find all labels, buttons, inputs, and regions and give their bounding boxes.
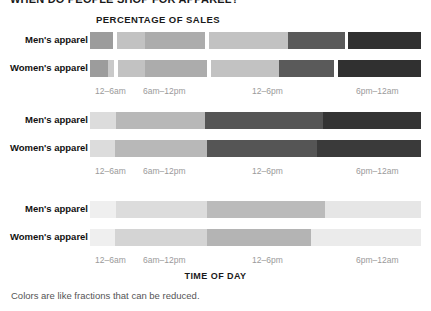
bar-segment[interactable] [115,140,207,157]
bar-segment[interactable] [338,60,421,77]
bar-segment[interactable] [207,140,317,157]
bar-segment[interactable] [207,201,325,218]
stacked-bar-mens[interactable] [90,112,421,129]
stacked-bar-mens[interactable] [90,32,421,49]
bar-segment[interactable] [279,60,334,77]
x-tick-label: 12–6am [95,255,126,265]
x-tick-label: 12–6am [95,86,126,96]
bar-segment[interactable] [348,32,420,49]
x-axis-title: TIME OF DAY [0,271,431,281]
x-tick-labels: 12–6am6am–12pm12–6pm6pm–12am [0,166,431,178]
stacked-bar-womens[interactable] [90,140,421,157]
bar-segment[interactable] [90,60,108,77]
row-label-mens: Men's apparel [25,114,88,125]
chart-row-womens: Women's apparel [0,229,431,246]
bar-segment[interactable] [288,32,344,49]
chart-row-womens: Women's apparel [0,60,431,77]
bar-segment[interactable] [90,229,115,246]
chart-row-mens: Men's apparel [0,201,431,218]
row-label-womens: Women's apparel [10,62,88,73]
bar-segment[interactable] [118,60,144,77]
stacked-bar-mens[interactable] [90,201,421,218]
bar-segment[interactable] [116,112,205,129]
bar-segment[interactable] [205,112,323,129]
bar-segment[interactable] [325,201,421,218]
bar-segment[interactable] [145,32,205,49]
x-tick-label: 6pm–12am [356,86,399,96]
x-tick-label: 12–6pm [252,86,283,96]
x-tick-label: 12–6pm [252,255,283,265]
bar-segment[interactable] [117,32,145,49]
bar-segment[interactable] [211,60,279,77]
stacked-bar-womens[interactable] [90,229,421,246]
row-label-womens: Women's apparel [10,142,88,153]
x-tick-label: 12–6am [95,166,126,176]
bar-segment[interactable] [311,229,421,246]
bar-segment[interactable] [90,201,116,218]
chart-row-womens: Women's apparel [0,140,431,157]
bar-segment[interactable] [317,140,421,157]
bar-segment[interactable] [116,201,207,218]
figure-caption: Colors are like fractions that can be re… [11,290,200,301]
bar-segment[interactable] [323,112,421,129]
x-tick-labels: 12–6am6am–12pm12–6pm6pm–12am [0,255,431,267]
bar-segment[interactable] [90,112,116,129]
stacked-bar-womens[interactable] [90,60,421,77]
bar-segment[interactable] [90,140,115,157]
x-tick-label: 6pm–12am [356,255,399,265]
bar-segment[interactable] [145,60,208,77]
x-tick-label: 6am–12pm [143,255,186,265]
bar-segment[interactable] [115,229,207,246]
x-tick-label: 6am–12pm [143,166,186,176]
x-tick-label: 6pm–12am [356,166,399,176]
page-title: WHEN DO PEOPLE SHOP FOR APPAREL? [10,0,239,5]
row-label-mens: Men's apparel [25,34,88,45]
bar-segment[interactable] [90,32,113,49]
x-tick-label: 6am–12pm [143,86,186,96]
x-tick-label: 12–6pm [252,166,283,176]
bar-segment[interactable] [209,32,288,49]
chart-row-mens: Men's apparel [0,32,431,49]
bar-segment[interactable] [207,229,311,246]
row-label-womens: Women's apparel [10,231,88,242]
row-label-mens: Men's apparel [25,203,88,214]
y-axis-title: PERCENTAGE OF SALES [96,14,220,25]
x-tick-labels: 12–6am6am–12pm12–6pm6pm–12am [0,86,431,98]
chart-row-mens: Men's apparel [0,112,431,129]
